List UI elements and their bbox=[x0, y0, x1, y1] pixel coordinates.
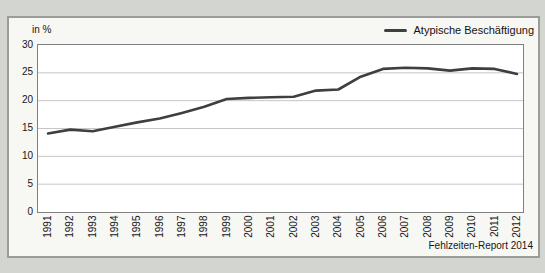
x-axis-year-label: 1996 bbox=[153, 216, 164, 248]
scanned-page-background: in % Atypische Beschäftigung 05101520253… bbox=[0, 0, 545, 273]
x-axis-year-label: 2000 bbox=[243, 216, 254, 248]
x-axis-year-label: 2007 bbox=[399, 216, 410, 248]
y-axis-tick-label: 10 bbox=[9, 150, 33, 161]
x-axis-year-label: 2004 bbox=[332, 216, 343, 248]
x-axis-year-label: 2005 bbox=[354, 216, 365, 248]
x-axis-year-label: 1992 bbox=[64, 216, 75, 248]
x-axis-year-label: 1999 bbox=[220, 216, 231, 248]
x-axis-year-label: 1995 bbox=[131, 216, 142, 248]
y-axis-tick-label: 0 bbox=[9, 206, 33, 217]
y-axis-tick-label: 25 bbox=[9, 66, 33, 77]
x-axis-year-label: 2003 bbox=[310, 216, 321, 248]
x-axis-year-label: 1998 bbox=[198, 216, 209, 248]
y-axis-unit-label: in % bbox=[32, 24, 51, 35]
x-axis-year-label: 2002 bbox=[287, 216, 298, 248]
source-label: Fehlzeiten-Report 2014 bbox=[428, 240, 533, 251]
x-axis-year-label: 1994 bbox=[109, 216, 120, 248]
chart-frame: in % Atypische Beschäftigung 05101520253… bbox=[7, 16, 540, 258]
legend-line-icon bbox=[384, 29, 407, 32]
y-axis-tick-label: 20 bbox=[9, 94, 33, 105]
x-axis-year-label: 1991 bbox=[42, 216, 53, 248]
x-axis-year-label: 1993 bbox=[86, 216, 97, 248]
plot-area bbox=[37, 44, 524, 213]
legend-series-label: Atypische Beschäftigung bbox=[414, 24, 534, 36]
x-axis-year-label: 2001 bbox=[265, 216, 276, 248]
y-axis-tick-label: 5 bbox=[9, 178, 33, 189]
line-chart-canvas bbox=[38, 45, 523, 212]
y-axis-tick-label: 30 bbox=[9, 39, 33, 50]
y-axis-tick-label: 15 bbox=[9, 122, 33, 133]
x-axis-year-label: 1997 bbox=[176, 216, 187, 248]
legend: Atypische Beschäftigung bbox=[384, 24, 534, 36]
x-axis-year-label: 2006 bbox=[377, 216, 388, 248]
